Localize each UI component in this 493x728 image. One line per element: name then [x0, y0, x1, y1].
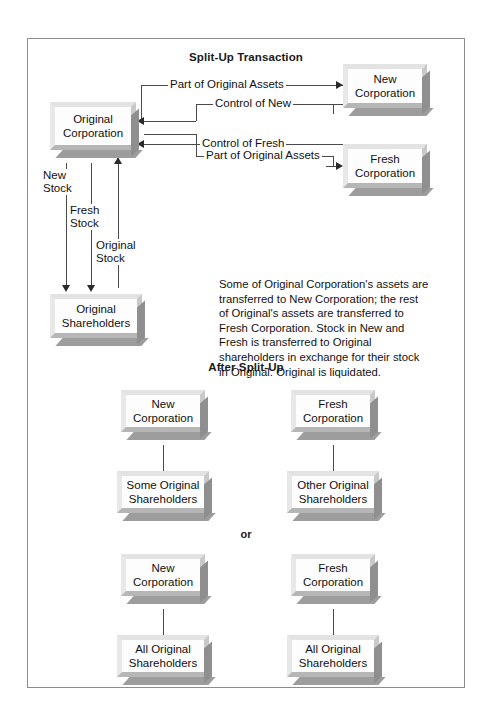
edge-label-fresh-stock: Fresh Stock	[68, 204, 101, 230]
node-original-shareholders[interactable]: Original Shareholders	[50, 294, 142, 338]
node-fresh-corporation-2[interactable]: Fresh Corporation	[291, 390, 375, 432]
arrowhead-fresh-stock	[87, 285, 95, 292]
node-label: Fresh Corporation	[301, 561, 365, 589]
edge-assets-new-riser	[141, 85, 142, 121]
edge-label-control-of-fresh: Control of Fresh	[200, 137, 286, 150]
arrowhead-original-stock	[114, 157, 122, 164]
node-label: Original Shareholders	[60, 302, 132, 330]
edge-assets-fresh-drop	[333, 156, 334, 166]
edge-assets-fresh-tail	[326, 166, 336, 167]
description-paragraph: Some of Original Corporation's assets ar…	[219, 277, 429, 379]
edge-label-new-stock: New Stock	[41, 169, 74, 195]
edge-control-new-drop	[196, 104, 197, 121]
node-some-original-shareholders[interactable]: Some Original Shareholders	[117, 471, 209, 513]
arrowhead-assets-new	[336, 81, 343, 89]
node-label: Original Corporation	[61, 112, 125, 140]
connector-fresh-to-other-shareholders	[333, 445, 334, 471]
split-up-transaction-title: Split-Up Transaction	[28, 51, 464, 63]
node-label: Some Original Shareholders	[125, 478, 202, 506]
node-new-corporation-3[interactable]: New Corporation	[121, 554, 205, 596]
edge-control-new-into-original	[144, 121, 196, 122]
node-label: New Corporation	[353, 72, 417, 100]
edge-assets-fresh-riser	[196, 134, 197, 156]
node-fresh-corporation-3[interactable]: Fresh Corporation	[291, 554, 375, 596]
arrowhead-assets-fresh	[336, 162, 343, 170]
edge-label-part-of-original-assets-new: Part of Original Assets	[168, 78, 286, 91]
arrowhead-new-stock	[62, 285, 70, 292]
node-label: All Original Shareholders	[297, 642, 369, 670]
connector-new-to-some-shareholders	[163, 445, 164, 471]
node-label: New Corporation	[131, 561, 195, 589]
node-label: Other Original Shareholders	[295, 478, 371, 506]
node-all-original-shareholders-left[interactable]: All Original Shareholders	[117, 635, 209, 677]
connector-fresh-to-all-shareholders-right	[333, 609, 334, 635]
node-label: Fresh Corporation	[353, 152, 417, 180]
edge-label-control-of-new: Control of New	[213, 97, 293, 110]
node-other-original-shareholders[interactable]: Other Original Shareholders	[287, 471, 379, 513]
node-label: New Corporation	[131, 397, 195, 425]
edge-assets-fresh-from-original	[144, 134, 196, 135]
node-fresh-corporation[interactable]: Fresh Corporation	[343, 144, 427, 188]
node-label: All Original Shareholders	[127, 642, 199, 670]
edge-original-stock-line	[118, 163, 119, 288]
node-label: Fresh Corporation	[301, 397, 365, 425]
or-separator-label: or	[28, 528, 464, 540]
connector-new-to-all-shareholders-left	[163, 609, 164, 635]
edge-control-new-riser-right	[333, 104, 334, 114]
node-new-corporation[interactable]: New Corporation	[343, 64, 427, 108]
node-all-original-shareholders-right[interactable]: All Original Shareholders	[287, 635, 379, 677]
node-new-corporation-2[interactable]: New Corporation	[121, 390, 205, 432]
edge-label-original-stock: Original Stock	[94, 239, 138, 265]
diagram-frame: Split-Up Transaction Original Corporatio…	[27, 38, 465, 688]
node-original-corporation[interactable]: Original Corporation	[50, 102, 136, 150]
edge-label-part-of-original-assets-fresh: Part of Original Assets	[204, 149, 322, 162]
